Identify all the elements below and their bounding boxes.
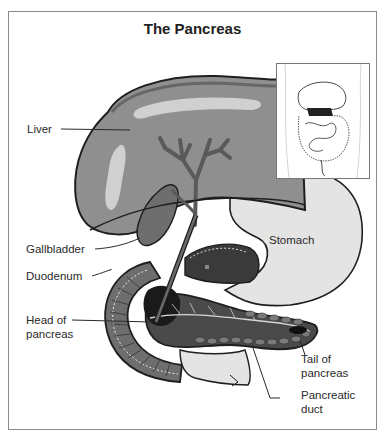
label-tail-line-1: Tail of bbox=[301, 352, 348, 366]
label-head-of-pancreas: Head of pancreas bbox=[26, 313, 73, 341]
label-pancreatic-duct: Pancreatic duct bbox=[301, 388, 355, 416]
label-tail-line-2: pancreas bbox=[301, 366, 348, 380]
label-head-line-1: Head of bbox=[26, 313, 73, 327]
torso-location-inset bbox=[276, 63, 370, 179]
label-liver: Liver bbox=[27, 122, 52, 136]
label-tail-of-pancreas: Tail of pancreas bbox=[301, 352, 348, 380]
label-duodenum: Duodenum bbox=[26, 269, 82, 283]
torso-inset-illustration bbox=[277, 64, 369, 178]
label-head-line-2: pancreas bbox=[26, 327, 73, 341]
label-duct-line-1: Pancreatic bbox=[301, 388, 355, 402]
label-gallbladder: Gallbladder bbox=[26, 242, 85, 256]
label-duct-line-2: duct bbox=[301, 402, 355, 416]
label-stomach: Stomach bbox=[269, 233, 314, 247]
